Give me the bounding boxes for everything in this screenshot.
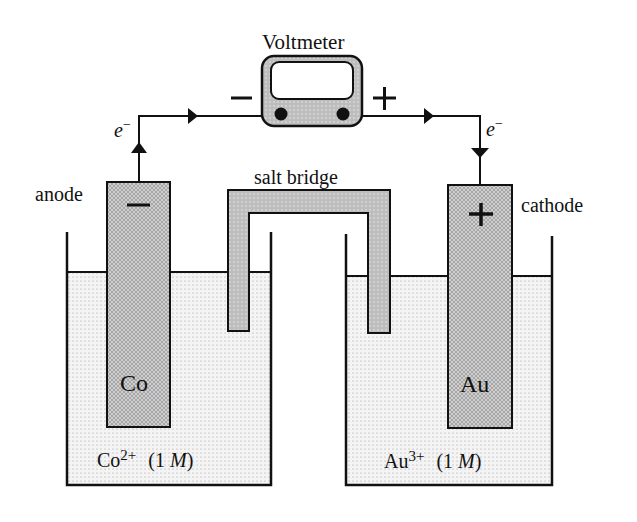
arrow-right-icon [424,108,434,124]
anode-metal-label: Co [120,370,148,396]
electron-label-right: e− [486,116,503,140]
cathode-label: cathode [521,194,583,216]
voltmeter-display [271,62,353,99]
voltmeter-label: Voltmeter [262,30,344,54]
electron-label-left: e− [114,117,131,141]
cathode-metal-label: Au [460,371,489,397]
anode-label: anode [35,183,83,205]
voltmeter [262,56,362,126]
salt-bridge-label: salt bridge [254,166,338,189]
arrow-down-icon [471,148,489,158]
wire-right [358,116,480,185]
arrow-up-icon [131,142,147,153]
voltmeter-negative-terminal [275,108,288,121]
voltmeter-plus-sign [373,87,396,110]
arrow-right-icon [188,108,198,124]
voltmeter-positive-terminal [337,108,350,121]
wire-left [139,116,265,182]
galvanic-cell-diagram: Voltmeter e− e− anode cathode salt bridg… [0,0,637,522]
